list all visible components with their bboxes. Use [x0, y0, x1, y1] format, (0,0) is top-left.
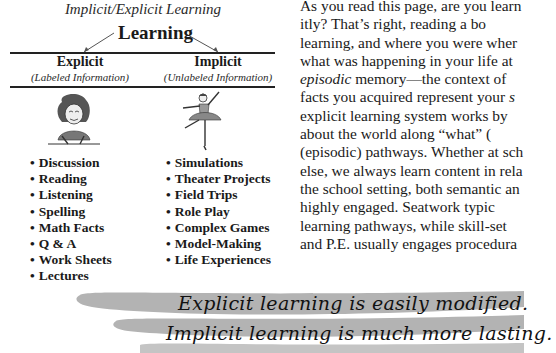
text-run: memory—the context of: [351, 70, 506, 87]
text-run: learning pathways, while skill-set: [300, 217, 507, 234]
swoosh-stroke-3: [140, 343, 524, 353]
body-text-line: what was happening in your life at: [300, 52, 556, 70]
body-text-line: episodic memory—the context of: [300, 70, 556, 88]
column-subheading: (Labeled Information): [20, 70, 140, 84]
column-heading: Explicit: [20, 54, 140, 70]
banner-line-1: Explicit learning is easily modified.: [178, 292, 528, 314]
body-text-line: As you read this page, are you learn: [300, 0, 556, 15]
body-text-line: learning, and where you were wher: [300, 34, 556, 52]
body-text-line: and P.E. usually engages procedura: [300, 235, 556, 253]
text-run: and P.E. usually engages procedura: [300, 235, 517, 252]
implicit-activities-list: Simulations Theater Projects Field Trips…: [166, 155, 271, 268]
text-run: about the world along “what” (: [300, 125, 491, 142]
body-text-line: else, we always learn content in rela: [300, 162, 556, 180]
body-text-line: explicit learning system works by: [300, 107, 556, 125]
teacher-writing-icon: [40, 92, 110, 150]
text-run: As you read this page, are you learn: [300, 0, 521, 14]
list-item: Simulations: [166, 155, 271, 171]
body-text-line: (episodic) pathways. Whether at sch: [300, 143, 556, 161]
list-item: Listening: [30, 187, 112, 203]
column-header-explicit: Explicit (Labeled Information): [20, 54, 140, 84]
list-item: Complex Games: [166, 220, 271, 236]
list-item: Theater Projects: [166, 171, 271, 187]
column-header-implicit: Implicit (Unlabeled Information): [158, 54, 278, 84]
list-item: Role Play: [166, 204, 271, 220]
body-text-line: the school setting, both semantic an: [300, 180, 556, 198]
body-text-line: about the world along “what” (: [300, 125, 556, 143]
banner-line-2: Implicit learning is much more lasting.: [166, 322, 553, 344]
text-run: else, we always learn content in rela: [300, 162, 523, 179]
list-item: Work Sheets: [30, 252, 112, 268]
body-text-line: learning pathways, while skill-set: [300, 217, 556, 235]
text-run: explicit learning system works by: [300, 107, 508, 124]
text-run: what was happening in your life at: [300, 52, 513, 69]
list-item: Reading: [30, 171, 112, 187]
list-item: Q & A: [30, 236, 112, 252]
list-item: Math Facts: [30, 220, 112, 236]
text-run: learning, and where you were wher: [300, 34, 517, 51]
divider-bottom: [10, 86, 275, 88]
text-run: (episodic) pathways. Whether at sch: [300, 143, 523, 160]
emphasized-text: s: [509, 88, 515, 105]
column-heading: Implicit: [158, 54, 278, 70]
text-run: highly engaged. Seatwork typic: [300, 198, 495, 215]
text-run: itly? That’s right, reading a bo: [300, 15, 486, 32]
explicit-activities-list: Discussion Reading Listening Spelling Ma…: [30, 155, 112, 285]
ballerina-icon: [175, 90, 235, 152]
emphasized-text: episodic: [300, 70, 351, 87]
list-item: Lectures: [30, 268, 112, 284]
body-paragraph: As you read this page, are you learnitly…: [300, 0, 556, 253]
body-text-line: highly engaged. Seatwork typic: [300, 198, 556, 216]
list-item: Model-Making: [166, 236, 271, 252]
root-label: Learning: [118, 22, 193, 44]
list-item: Life Experiences: [166, 252, 271, 268]
body-text-line: facts you acquired represent your s: [300, 88, 556, 106]
arrow-to-explicit: [84, 33, 114, 52]
text-run: facts you acquired represent your: [300, 88, 509, 105]
column-subheading: (Unlabeled Information): [158, 70, 278, 84]
list-item: Field Trips: [166, 187, 271, 203]
text-run: the school setting, both semantic an: [300, 180, 520, 197]
list-item: Spelling: [30, 204, 112, 220]
list-item: Discussion: [30, 155, 112, 171]
body-text-line: itly? That’s right, reading a bo: [300, 15, 556, 33]
